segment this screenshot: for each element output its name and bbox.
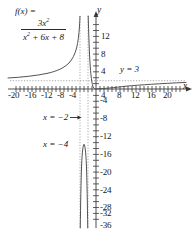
x-tick-label-20: 20 [163,91,171,100]
function-fraction: 3x2 x2 + 6x + 8 [21,17,66,42]
curve-middle-branch [80,144,88,228]
x-axis-label: x [183,82,187,92]
y-axis-label: y [97,6,101,16]
function-expression-label: f(x) = 3x2 x2 + 6x + 8 [13,6,66,42]
x-tick-label-neg8: -8 [57,91,64,100]
fraction-numerator: 3x2 [21,17,66,29]
y-tick-label-neg8: -8 [100,114,107,123]
y-tick-label-neg36: -36 [100,221,111,230]
x-tick-label-neg12: -12 [41,91,52,100]
y-tick-label-neg20: -20 [100,168,111,177]
horizontal-asymptote-label: y = 3 [120,65,139,74]
x-tick-label-neg20: -20 [8,91,19,100]
x-tick-label-16: 16 [147,91,155,100]
vertical-asymptote-label-x-minus-2: x = −2 [43,113,68,122]
y-tick-label-neg4: -4 [100,96,107,105]
y-tick-label-neg24: -24 [100,186,111,195]
x-tick-label-neg4: -4 [69,91,76,100]
y-tick-label-12: 12 [101,32,109,41]
y-tick-label-neg32: -32 [100,209,111,218]
fraction-denominator: x2 + 6x + 8 [21,30,66,42]
y-tick-label-neg12: -12 [100,132,111,141]
function-graph-figure: f(x) = 3x2 x2 + 6x + 8 x y -20 -16 -12 -… [0,0,196,235]
x-tick-label-8: 8 [117,91,121,100]
vertical-asymptote-label-x-minus-4: x = −4 [43,140,68,149]
x-tick-label-neg16: -16 [25,91,36,100]
function-name-equals: f(x) = [15,6,66,16]
y-tick-label-neg16: -16 [100,150,111,159]
x-tick-label-12: 12 [131,91,139,100]
y-tick-label-8: 8 [101,50,105,59]
y-tick-label-4: 4 [101,67,105,76]
asymptote-pointer-arrow [70,115,82,119]
